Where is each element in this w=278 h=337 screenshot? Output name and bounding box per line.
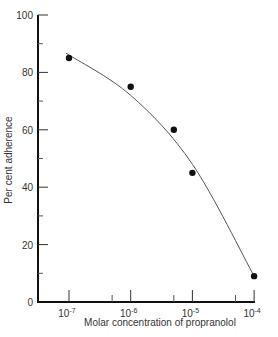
- y-tick-label: 0: [27, 297, 33, 308]
- data-point: [171, 127, 177, 133]
- fitted-curve: [66, 53, 254, 276]
- chart: 020406080100 10-710-610-510-4 Molar conc…: [0, 0, 278, 337]
- y-axis-ticks: 020406080100: [16, 10, 48, 308]
- data-points: [66, 55, 258, 280]
- data-point: [66, 55, 72, 61]
- data-point: [189, 170, 195, 176]
- x-tick-label: 10-7: [58, 307, 75, 319]
- data-point: [251, 273, 257, 279]
- y-tick-label: 40: [22, 182, 34, 193]
- y-tick-label: 100: [16, 10, 33, 21]
- x-axis-ticks: 10-710-610-510-4: [58, 290, 261, 319]
- x-axis-title: Molar concentration of propranolol: [84, 317, 236, 328]
- y-tick-label: 20: [22, 240, 34, 251]
- data-point: [128, 84, 134, 90]
- y-tick-label: 60: [22, 125, 34, 136]
- x-tick-label: 10-4: [243, 307, 260, 319]
- y-tick-label: 80: [22, 67, 34, 78]
- y-axis-title: Per cent adherence: [3, 116, 14, 204]
